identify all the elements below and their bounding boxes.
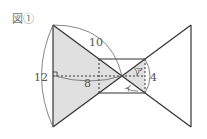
label-10: 10 xyxy=(89,36,103,49)
label-12: 12 xyxy=(34,71,48,84)
label-8: 8 xyxy=(84,77,91,90)
label-angle-i: イ xyxy=(124,84,132,93)
shaded-triangle-left xyxy=(53,25,122,127)
label-4: 4 xyxy=(150,71,157,84)
bowtie-diagram: 12 10 8 4 ア イ xyxy=(0,0,207,139)
label-angle-a: ア xyxy=(135,67,143,76)
